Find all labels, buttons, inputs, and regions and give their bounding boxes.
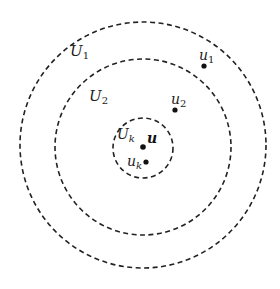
label-uk: uk — [127, 153, 142, 171]
point-u1 — [201, 63, 206, 68]
label-u2-sub: 2 — [180, 98, 186, 109]
label-U1: U1 — [70, 42, 89, 61]
label-Uk: Uk — [117, 126, 135, 144]
label-uk-main: u — [127, 153, 136, 169]
label-Uk-sub: k — [129, 133, 135, 144]
label-U1-sub: 1 — [83, 50, 89, 61]
label-u2-main: u — [171, 91, 180, 107]
label-u1-sub: 1 — [208, 54, 214, 65]
label-U2: U2 — [89, 87, 108, 106]
label-uk-sub: k — [136, 160, 142, 171]
label-u1: u1 — [199, 47, 214, 65]
label-u: u — [147, 130, 157, 146]
label-u2: u2 — [171, 91, 186, 109]
point-u — [140, 144, 146, 150]
label-u1-main: u — [199, 47, 208, 63]
label-U2-sub: 2 — [102, 95, 108, 106]
point-uk — [143, 159, 148, 164]
point-u2 — [172, 107, 177, 112]
nested-neighborhoods-diagram: U1 U2 Uk u1 u2 u uk — [0, 0, 280, 289]
